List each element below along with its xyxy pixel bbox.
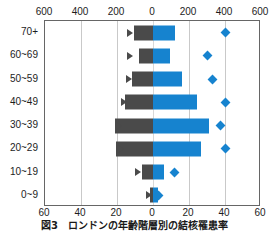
- bottom-axis-tick: 40: [74, 206, 85, 219]
- bottom-axis-tick: 60: [38, 206, 49, 219]
- top-axis-tick: 400: [72, 5, 89, 18]
- category-label: 30~39: [10, 118, 38, 131]
- category-label: 50~59: [10, 72, 38, 85]
- right-diamond-marker: [220, 97, 230, 107]
- right-diamond-marker: [203, 51, 213, 61]
- chart-row: [45, 68, 259, 91]
- left-triangle-marker: [135, 168, 141, 176]
- bottom-axis-tick-labels: 6040200204060: [44, 206, 260, 219]
- figure-caption: 図3 ロンドンの年齢階層別の結核罹患率: [0, 220, 269, 232]
- right-diamond-marker: [207, 74, 217, 84]
- right-bar: [153, 141, 201, 156]
- chart-row: [45, 137, 259, 160]
- right-bar: [153, 72, 182, 87]
- top-axis-tick: 200: [108, 5, 125, 18]
- left-bar: [139, 48, 153, 63]
- right-bar: [153, 95, 197, 110]
- left-triangle-marker: [118, 145, 124, 153]
- chart-row: [45, 44, 259, 67]
- category-label: 40~49: [10, 95, 38, 108]
- top-axis-tick-labels: 6004002000200400600: [44, 5, 260, 18]
- category-axis-labels: 70+60~6950~5940~4930~3920~2910~190~9: [0, 20, 41, 206]
- top-axis-tick: 600: [36, 5, 53, 18]
- top-axis-tick: 200: [180, 5, 197, 18]
- bottom-axis-tick: 20: [182, 206, 193, 219]
- left-triangle-marker: [116, 122, 122, 130]
- category-label: 10~19: [10, 165, 38, 178]
- chart-row: [45, 91, 259, 114]
- left-bar: [142, 165, 153, 180]
- top-axis-tick: 600: [252, 5, 269, 18]
- bottom-axis-tick: 0: [149, 206, 155, 219]
- left-triangle-marker: [146, 191, 152, 199]
- chart-row: [45, 21, 259, 44]
- category-label: 60~69: [10, 48, 38, 61]
- left-triangle-marker: [127, 52, 133, 60]
- left-triangle-marker: [127, 29, 133, 37]
- left-triangle-marker: [126, 75, 132, 83]
- left-triangle-marker: [121, 98, 127, 106]
- chart-row: [45, 161, 259, 184]
- category-label: 20~29: [10, 141, 38, 154]
- right-bar: [153, 48, 170, 63]
- right-diamond-marker: [220, 144, 230, 154]
- right-bar: [153, 165, 164, 180]
- plot-area: [44, 20, 260, 206]
- right-bar: [153, 118, 209, 133]
- chart-row: [45, 114, 259, 137]
- category-label: 70+: [21, 25, 38, 38]
- category-label: 0~9: [21, 188, 38, 201]
- bottom-axis-tick: 20: [110, 206, 121, 219]
- left-bar: [134, 25, 153, 40]
- right-diamond-marker: [170, 167, 180, 177]
- figure-tuberculosis-by-age-group: 6004002000200400600 70+60~6950~5940~4930…: [0, 0, 269, 232]
- bottom-axis-tick: 60: [254, 206, 265, 219]
- top-axis-tick: 0: [149, 5, 155, 18]
- left-bar: [125, 95, 153, 110]
- top-axis-tick: 400: [216, 5, 233, 18]
- right-diamond-marker: [216, 121, 226, 131]
- right-bar: [153, 25, 175, 40]
- bottom-axis-tick: 40: [218, 206, 229, 219]
- right-diamond-marker: [220, 28, 230, 38]
- chart-row: [45, 184, 259, 207]
- left-bar: [132, 72, 153, 87]
